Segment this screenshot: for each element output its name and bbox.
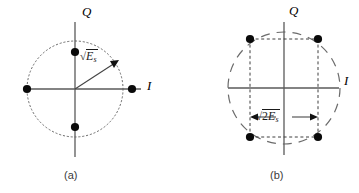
constellation-point [246, 35, 254, 43]
constellation-point [23, 85, 31, 93]
i-axis-label-a: I [147, 79, 151, 92]
constellation-point [71, 48, 79, 56]
radicand-group: 2Es [262, 109, 279, 124]
panel-a-caption: (a) [64, 170, 77, 181]
q-axis-label-b: Q [289, 4, 298, 17]
q-axis-label-a: Q [82, 5, 91, 18]
panel-a-graphics [0, 0, 180, 193]
panel-b-caption: (b) [270, 170, 283, 181]
energy-subscript: s [275, 115, 278, 124]
vector-magnitude-label-a: √Es [80, 49, 98, 64]
constellation-point [71, 123, 79, 131]
panel-a: Q I √Es (a) [0, 0, 180, 193]
constellation-point [246, 133, 254, 141]
energy-subscript: s [93, 55, 96, 64]
i-axis-label-b: I [344, 74, 348, 87]
signal-vector-a [75, 63, 115, 89]
constellation-point [314, 133, 322, 141]
constellation-figure: Q I √Es (a) [0, 0, 359, 193]
constellation-point [314, 35, 322, 43]
panel-b: Q I √2Es (b) [180, 0, 359, 193]
dimension-arrowhead-right [310, 114, 318, 121]
panel-b-graphics [180, 0, 359, 193]
constellation-point [128, 85, 136, 93]
radicand-group: Es [86, 49, 97, 64]
dimension-label-b: √2Es [256, 109, 280, 124]
